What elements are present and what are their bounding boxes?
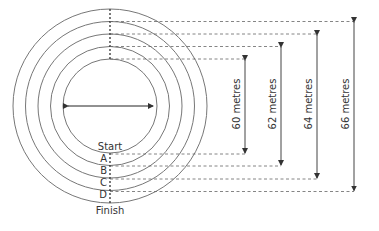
label-60m: 60 metres: [231, 79, 242, 130]
start-label: Start: [98, 141, 123, 152]
lane-label-c: C: [100, 177, 107, 188]
label-66m: 66 metres: [340, 79, 351, 130]
lane-label-b: B: [100, 165, 107, 176]
label-64m: 64 metres: [303, 79, 314, 130]
lane-label-d: D: [99, 189, 107, 200]
lane-label-a: A: [100, 153, 107, 164]
finish-label: Finish: [96, 205, 124, 216]
track-diagram: 60 metres 62 metres 64 metres 66 metres …: [0, 0, 379, 231]
measurement-arrows: [245, 22, 354, 191]
label-62m: 62 metres: [267, 79, 278, 130]
